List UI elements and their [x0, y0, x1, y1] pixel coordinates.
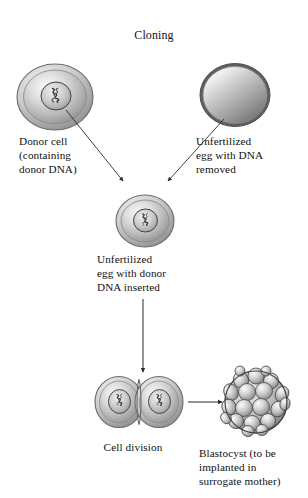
diagram-title: Cloning: [0, 28, 308, 42]
donor-cell-caption: Donor cell (containing donor DNA): [19, 134, 123, 177]
unfertilized-egg-graphic: [200, 64, 270, 127]
blastocyst-caption: Blastocyst (to be implanted in surrogate…: [199, 446, 308, 489]
diagram-graphics: [0, 0, 308, 498]
blastocyst-graphic: [218, 366, 291, 437]
cloning-diagram: Cloning Donor cell (containing donor DNA…: [0, 0, 308, 498]
dividing-cells-graphic: [95, 377, 183, 428]
unfertilized-egg-caption: Unfertilized egg with DNA removed: [196, 134, 304, 177]
egg-with-donor-dna-graphic: [116, 195, 174, 247]
donor-cell-graphic: [17, 64, 93, 130]
cell-division-caption: Cell division: [78, 440, 188, 454]
egg-with-donor-dna-caption: Unfertilized egg with donor DNA inserted: [97, 252, 215, 295]
